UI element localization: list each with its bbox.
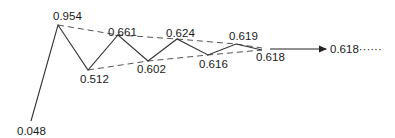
convergence-diagram: 0.048 0.954 0.512 0.661 0.602 0.624 0.61…	[0, 0, 395, 138]
limit-label: 0.618······	[330, 43, 382, 55]
value-label-0619: 0.619	[229, 30, 258, 42]
value-label-0602: 0.602	[137, 63, 166, 75]
value-label-0512: 0.512	[80, 73, 109, 85]
value-label-0954: 0.954	[53, 10, 82, 22]
value-label-0048: 0.048	[17, 125, 46, 137]
lower-envelope-dashed-line	[88, 50, 262, 70]
value-label-0624: 0.624	[166, 27, 195, 39]
value-label-0618: 0.618	[256, 51, 285, 63]
value-label-0661: 0.661	[108, 26, 137, 38]
value-label-0616: 0.616	[199, 58, 228, 70]
